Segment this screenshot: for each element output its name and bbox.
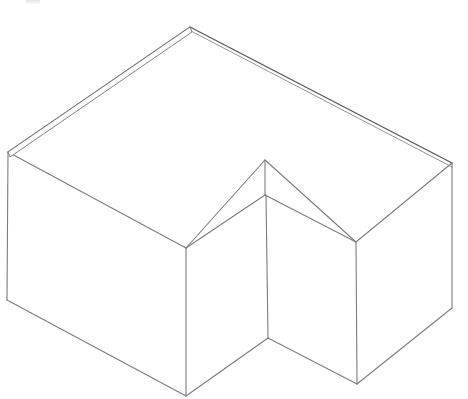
faces-group xyxy=(7,27,452,396)
isometric-block-figure xyxy=(0,0,468,399)
scan-artifact-mark xyxy=(26,0,40,4)
drawing-canvas xyxy=(0,0,468,399)
